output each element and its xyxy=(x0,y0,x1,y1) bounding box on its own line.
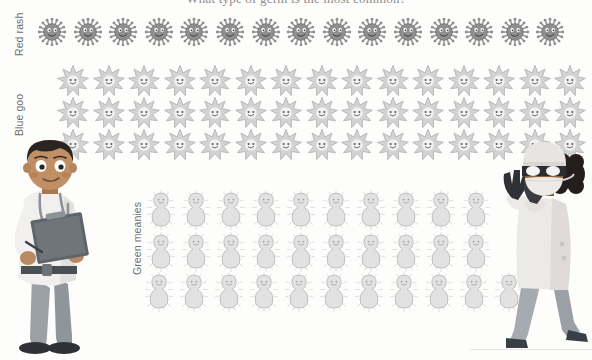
germ-icon-green-meanies xyxy=(353,272,385,312)
germ-icon-green-meanies xyxy=(215,232,247,272)
germ-icon-green-meanies xyxy=(318,272,350,312)
germ-icon-green-meanies xyxy=(390,232,422,272)
germ-icon-blue-goo xyxy=(447,128,481,162)
germ-icon-green-meanies xyxy=(425,232,457,272)
germ-icon-green-meanies xyxy=(180,232,212,272)
germ-icon-blue-goo xyxy=(411,96,445,130)
germ-icon-blue-goo xyxy=(447,64,481,98)
germ-icon-blue-goo xyxy=(56,96,90,130)
germ-icon-blue-goo xyxy=(163,96,197,130)
icon-row-blue-goo-2 xyxy=(56,96,587,130)
germ-icon-red-rash xyxy=(356,16,388,48)
germ-icon-green-meanies xyxy=(390,190,422,230)
germ-icon-blue-goo xyxy=(163,64,197,98)
germ-icon-green-meanies xyxy=(355,232,387,272)
germ-icon-blue-goo xyxy=(198,64,232,98)
germ-icon-green-meanies xyxy=(145,190,177,230)
page-title: What type of germ is the most common? xyxy=(0,0,592,7)
icon-row-blue-goo-1 xyxy=(56,64,587,98)
germ-icon-red-rash xyxy=(499,16,531,48)
male-doctor-illustration xyxy=(0,138,110,360)
floor-shadow-line xyxy=(470,349,592,350)
pictogram-page: What type of germ is the most common? Re… xyxy=(0,0,592,360)
row-label-red-rash: Red rash xyxy=(13,13,25,56)
germ-icon-blue-goo xyxy=(376,128,410,162)
germ-icon-blue-goo xyxy=(553,64,587,98)
germ-icon-blue-goo xyxy=(376,64,410,98)
germ-icon-green-meanies xyxy=(248,272,280,312)
germ-icon-blue-goo xyxy=(305,128,339,162)
germ-icon-blue-goo xyxy=(234,96,268,130)
germ-icon-green-meanies xyxy=(285,232,317,272)
germ-icon-green-meanies xyxy=(178,272,210,312)
germ-icon-blue-goo xyxy=(518,96,552,130)
germ-icon-blue-goo xyxy=(234,128,268,162)
germ-icon-green-meanies xyxy=(460,190,492,230)
germ-icon-blue-goo xyxy=(127,96,161,130)
germ-icon-blue-goo xyxy=(340,64,374,98)
germ-icon-red-rash xyxy=(463,16,495,48)
row-label-green-meanies: Green meanies xyxy=(131,202,143,275)
germ-icon-red-rash xyxy=(178,16,210,48)
germ-icon-green-meanies xyxy=(320,232,352,272)
germ-icon-blue-goo xyxy=(340,128,374,162)
germ-icon-green-meanies xyxy=(285,190,317,230)
row-label-blue-goo: Blue goo xyxy=(13,94,25,136)
germ-icon-red-rash xyxy=(285,16,317,48)
germ-icon-green-meanies xyxy=(460,232,492,272)
germ-icon-blue-goo xyxy=(56,64,90,98)
germ-icon-blue-goo xyxy=(92,64,126,98)
germ-icon-blue-goo xyxy=(411,128,445,162)
germ-icon-blue-goo xyxy=(127,64,161,98)
germ-icon-green-meanies xyxy=(320,190,352,230)
icon-row-green-meanies-1 xyxy=(145,190,492,230)
germ-icon-blue-goo xyxy=(92,96,126,130)
germ-icon-blue-goo xyxy=(305,64,339,98)
germ-icon-green-meanies xyxy=(145,232,177,272)
germ-icon-blue-goo xyxy=(482,64,516,98)
germ-icon-red-rash xyxy=(72,16,104,48)
female-surgeon-illustration xyxy=(496,140,592,360)
germ-icon-green-meanies xyxy=(215,190,247,230)
germ-icon-blue-goo xyxy=(553,96,587,130)
germ-icon-blue-goo xyxy=(447,96,481,130)
germ-icon-green-meanies xyxy=(423,272,455,312)
germ-icon-blue-goo xyxy=(198,96,232,130)
germ-icon-red-rash xyxy=(214,16,246,48)
germ-icon-red-rash xyxy=(143,16,175,48)
germ-icon-blue-goo xyxy=(340,96,374,130)
germ-icon-green-meanies xyxy=(213,272,245,312)
germ-icon-green-meanies xyxy=(180,190,212,230)
germ-icon-blue-goo xyxy=(163,128,197,162)
icon-row-red-rash-1 xyxy=(36,16,566,48)
germ-icon-blue-goo xyxy=(269,96,303,130)
germ-icon-red-rash xyxy=(250,16,282,48)
germ-icon-blue-goo xyxy=(198,128,232,162)
germ-icon-red-rash xyxy=(321,16,353,48)
germ-icon-red-rash xyxy=(428,16,460,48)
germ-icon-blue-goo xyxy=(269,128,303,162)
germ-icon-green-meanies xyxy=(283,272,315,312)
germ-icon-blue-goo xyxy=(482,96,516,130)
germ-icon-blue-goo xyxy=(518,64,552,98)
germ-icon-green-meanies xyxy=(250,190,282,230)
germ-icon-blue-goo xyxy=(234,64,268,98)
icon-row-green-meanies-3 xyxy=(143,272,525,312)
germ-icon-green-meanies xyxy=(425,190,457,230)
germ-icon-red-rash xyxy=(107,16,139,48)
germ-icon-blue-goo xyxy=(269,64,303,98)
germ-icon-green-meanies xyxy=(250,232,282,272)
germ-icon-red-rash xyxy=(36,16,68,48)
germ-icon-blue-goo xyxy=(305,96,339,130)
germ-icon-blue-goo xyxy=(127,128,161,162)
germ-icon-blue-goo xyxy=(411,64,445,98)
germ-icon-green-meanies xyxy=(143,272,175,312)
germ-icon-blue-goo xyxy=(376,96,410,130)
germ-icon-red-rash xyxy=(534,16,566,48)
germ-icon-red-rash xyxy=(392,16,424,48)
germ-icon-green-meanies xyxy=(458,272,490,312)
icon-row-green-meanies-2 xyxy=(145,232,492,272)
germ-icon-green-meanies xyxy=(388,272,420,312)
germ-icon-green-meanies xyxy=(355,190,387,230)
